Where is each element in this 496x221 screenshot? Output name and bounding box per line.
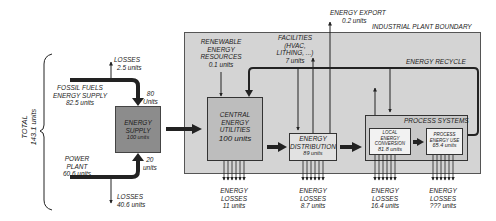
total-title: TOTAL (20, 102, 29, 152)
local-conversion-label: LOCAL ENERGY CONVERSION 81.8 units (369, 130, 411, 152)
total-label: TOTAL 143.1 units (20, 102, 38, 152)
loss-label-utilities: ENERGYLOSSES11 units (214, 187, 254, 210)
total-value: 143.1 units (29, 102, 38, 152)
distribution-label: ENERGY DISTRIBUTION 89 units (289, 135, 337, 156)
fossil-losses-label: LOSSES 2.5 units (114, 56, 142, 71)
facilities-label: FACILITIES (HVAC, LITHING, ...) 7 units (272, 34, 318, 64)
renewable-label: RENEWABLE ENERGY RESOURCES 0.1 units (190, 38, 252, 68)
fossil-delivered-label: 80 Units (143, 90, 158, 105)
energy-supply-label: ENERGY SUPPLY 100 units (115, 119, 161, 140)
process-systems-label: PROCESS SYSTEMS (404, 117, 469, 125)
power-losses-label: LOSSES 40.6 units (117, 193, 145, 208)
recycle-label: ENERGY RECYCLE (406, 58, 466, 66)
fossil-fuels-label: FOSSIL FUELS ENERGY SUPPLY 82.5 units (50, 84, 110, 107)
central-utilities-label: CENTRAL ENERGY UTILITIES 100 units (207, 111, 263, 143)
power-delivered-label: 20 units (143, 156, 157, 171)
power-plant-label: POWER PLANT 60.6 units (52, 155, 102, 178)
loss-label-conversion: ENERGYLOSSES16.4 units (365, 187, 405, 210)
process-use-label: PROCESS ENERGY USE 65.4 units (426, 132, 463, 149)
total-brace (40, 54, 52, 210)
export-label: ENERGY EXPORT 0.2 units (330, 9, 386, 24)
loss-label-distribution: ENERGYLOSSES8.7 units (293, 187, 333, 210)
loss-label-process: ENERGYLOSSES??? units (423, 187, 463, 210)
